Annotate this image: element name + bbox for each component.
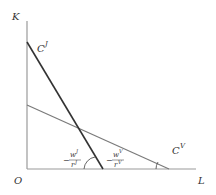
x-axis-label: L [197, 175, 205, 186]
svg-text:−: − [106, 156, 113, 165]
svg-text:J: J [75, 148, 79, 155]
svg-text:V: V [180, 142, 186, 150]
svg-text:−: − [63, 156, 70, 165]
y-axis-label: K [11, 11, 20, 22]
line-label-j: C J [37, 40, 49, 54]
slope-label-v: − w V r V [106, 148, 124, 169]
isocost-diagram: K L O C J C V − w J r J − w V r V [0, 0, 216, 195]
angle-arc-j [84, 157, 95, 169]
svg-text:C: C [37, 43, 45, 54]
isocost-line-j [27, 42, 103, 169]
origin-label: O [14, 175, 22, 186]
line-label-v: C V [172, 142, 186, 156]
svg-text:C: C [172, 145, 180, 156]
slope-label-j: − w J r J [63, 148, 81, 169]
